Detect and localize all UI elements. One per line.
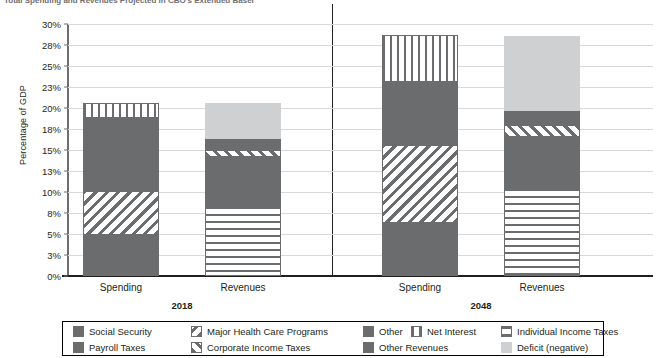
legend-swatch	[363, 342, 374, 353]
bar-segment	[205, 150, 281, 157]
group-label-2018: 2018	[132, 300, 232, 311]
y-axis-tick-mark	[64, 87, 68, 88]
legend-item: Net Interest	[411, 323, 476, 339]
legend-label: Social Security	[89, 326, 152, 337]
bar-segment	[504, 111, 580, 124]
legend-swatch	[191, 342, 202, 353]
y-axis-tick-label: 28%	[42, 40, 61, 51]
bar-2018-revenues	[205, 103, 281, 276]
bar-segment	[205, 139, 281, 150]
legend-label: Other	[379, 326, 403, 337]
y-axis-tick-label: 18%	[42, 124, 61, 135]
legend-swatch	[501, 326, 512, 337]
bar-segment	[382, 145, 458, 223]
y-axis-tick-label: 23%	[42, 82, 61, 93]
bar-2048-revenues	[504, 36, 580, 276]
bar-segment	[205, 103, 281, 139]
chart-title-text: Total Spending and Revenues Projected in…	[4, 0, 254, 5]
x-axis-category-label: Spending	[61, 282, 181, 293]
y-axis-tick-mark	[64, 66, 68, 67]
y-axis-tick-label: 0%	[47, 271, 61, 282]
y-axis-tick-mark	[64, 108, 68, 109]
bar-segment	[205, 157, 281, 207]
bar-segment	[83, 191, 159, 235]
legend-label: Payroll Taxes	[89, 342, 145, 353]
bar-segment	[504, 125, 580, 137]
plot-area: 0%3%5%8%10%13%15%18%20%23%25%28%30%	[68, 24, 653, 276]
legend-row-2: Payroll TaxesCorporate Income TaxesOther…	[63, 339, 603, 355]
y-axis-tick-mark	[64, 213, 68, 214]
chart-legend: Social SecurityMajor Health Care Program…	[62, 321, 604, 356]
y-axis-tick-mark	[64, 45, 68, 46]
chart-page: Total Spending and Revenues Projected in…	[0, 0, 665, 358]
y-axis-tick-label: 20%	[42, 103, 61, 114]
y-axis-tick-label: 10%	[42, 187, 61, 198]
legend-item: Social Security	[73, 323, 152, 339]
legend-label: Other Revenues	[379, 342, 448, 353]
bar-segment	[83, 103, 159, 118]
y-axis-label: Percentage of GDP	[18, 55, 28, 195]
legend-item: Deficit (negative)	[501, 339, 588, 355]
y-axis-tick-mark	[64, 234, 68, 235]
y-axis-tick-mark	[64, 171, 68, 172]
bar-2018-spending	[83, 103, 159, 276]
y-axis-tick-label: 5%	[47, 229, 61, 240]
bar-segment	[83, 118, 159, 191]
legend-label: Individual Income Taxes	[517, 326, 618, 337]
legend-label: Deficit (negative)	[517, 342, 588, 353]
y-axis-tick-mark	[64, 255, 68, 256]
y-axis-tick-mark	[64, 24, 68, 25]
y-axis-tick-label: 30%	[42, 19, 61, 30]
legend-item: Individual Income Taxes	[501, 323, 618, 339]
legend-swatch	[73, 342, 84, 353]
y-axis-tick-label: 8%	[47, 208, 61, 219]
bar-segment	[504, 137, 580, 188]
x-axis-category-label: Revenues	[482, 282, 602, 293]
legend-item: Other	[363, 323, 403, 339]
x-axis-category-label: Revenues	[183, 282, 303, 293]
y-axis-tick-mark	[64, 192, 68, 193]
legend-label: Net Interest	[427, 326, 476, 337]
bar-segment	[504, 36, 580, 112]
bar-segment	[504, 188, 580, 276]
bar-segment	[205, 206, 281, 276]
legend-item: Major Health Care Programs	[191, 323, 328, 339]
y-axis-tick-label: 3%	[47, 250, 61, 261]
bar-segment	[382, 82, 458, 145]
legend-swatch	[363, 326, 374, 337]
y-axis-tick-label: 25%	[42, 61, 61, 72]
legend-item: Other Revenues	[363, 339, 448, 355]
y-axis-tick-label: 13%	[42, 166, 61, 177]
bar-segment	[382, 35, 458, 82]
legend-swatch	[191, 326, 202, 337]
legend-row-1: Social SecurityMajor Health Care Program…	[63, 323, 603, 339]
y-axis-tick-mark	[64, 129, 68, 130]
legend-swatch	[411, 326, 422, 337]
gridline	[68, 24, 653, 25]
legend-item: Payroll Taxes	[73, 339, 145, 355]
group-label-2048: 2048	[431, 300, 531, 311]
legend-swatch	[501, 342, 512, 353]
bar-2048-spending	[382, 35, 458, 276]
chart-title: Total Spending and Revenues Projected in…	[4, 0, 254, 9]
x-axis-category-label: Spending	[360, 282, 480, 293]
legend-label: Corporate Income Taxes	[207, 342, 310, 353]
legend-item: Corporate Income Taxes	[191, 339, 310, 355]
y-axis-tick-mark	[64, 150, 68, 151]
bar-segment	[382, 223, 458, 276]
legend-label: Major Health Care Programs	[207, 326, 328, 337]
y-axis-tick-mark	[64, 276, 68, 277]
legend-swatch	[73, 326, 84, 337]
bar-segment	[83, 235, 159, 276]
y-axis-tick-label: 15%	[42, 145, 61, 156]
